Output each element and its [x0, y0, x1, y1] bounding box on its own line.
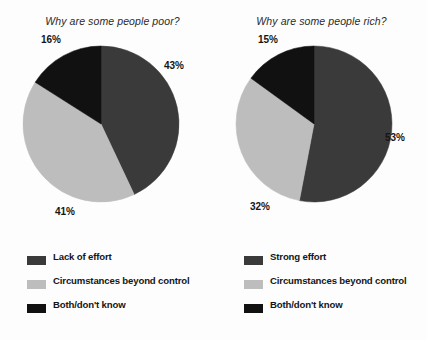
legend-color-swatch	[27, 280, 46, 289]
pie-area-poor: 43%41%16%	[0, 40, 213, 215]
legend-rich: Strong effortCircumstances beyond contro…	[244, 252, 427, 324]
pie-percent-label: 53%	[385, 132, 405, 143]
chart-title-poor: Why are some people poor?	[0, 15, 219, 27]
legend-item: Strong effort	[244, 252, 427, 276]
pie-percent-label: 16%	[41, 34, 61, 45]
legend-item-label: Circumstances beyond control	[53, 275, 190, 286]
legend-item: Lack of effort	[27, 252, 213, 276]
legend-color-swatch	[244, 280, 263, 289]
legend-item-label: Circumstances beyond control	[270, 275, 407, 286]
legend-item-label: Both/don't know	[270, 299, 343, 310]
legend-item-label: Strong effort	[270, 251, 326, 262]
pie-chart-panel-rich: Why are some people rich? 53%32%15% Stro…	[213, 0, 426, 340]
pie-percent-label: 32%	[250, 201, 270, 212]
pie-chart-panel-poor: Why are some people poor? 43%41%16% Lack…	[0, 0, 213, 340]
legend-color-swatch	[244, 304, 263, 313]
figure-canvas: Why are some people poor? 43%41%16% Lack…	[0, 0, 427, 340]
legend-color-swatch	[27, 256, 46, 265]
pie-area-rich: 53%32%15%	[213, 40, 426, 215]
legend-color-swatch	[27, 304, 46, 313]
legend-item: Both/don't know	[27, 300, 213, 324]
legend-item: Circumstances beyond control	[27, 276, 213, 300]
legend-item-label: Lack of effort	[53, 251, 112, 262]
chart-title-rich: Why are some people rich?	[213, 15, 427, 27]
legend-item: Circumstances beyond control	[244, 276, 427, 300]
legend-item-label: Both/don't know	[53, 299, 126, 310]
legend-item: Both/don't know	[244, 300, 427, 324]
pie-percent-label: 41%	[55, 206, 75, 217]
pie-percent-label: 43%	[164, 60, 184, 71]
legend-color-swatch	[244, 256, 263, 265]
pie-percent-label: 15%	[258, 34, 278, 45]
pie-graphic-rich	[213, 40, 426, 215]
legend-poor: Lack of effortCircumstances beyond contr…	[27, 252, 213, 324]
